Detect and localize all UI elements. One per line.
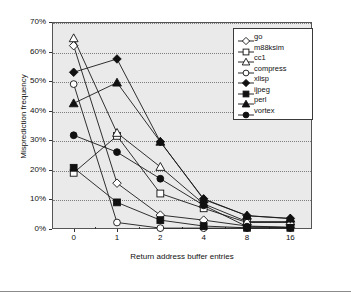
legend-marker-open-triangle-icon [238,53,254,63]
x-tick-mark [117,229,118,232]
x-tick-label: 2 [148,233,172,242]
y-tick-label: 70% [0,18,46,26]
data-point [113,179,122,188]
data-point [200,223,207,230]
data-point [114,199,121,206]
legend-marker-filled-circle-icon [238,106,254,116]
data-point [114,149,121,156]
legend-label: perl [254,95,267,105]
x-tick-label: 1 [105,233,129,242]
figure-divider [0,291,351,292]
legend-label: go [254,32,262,42]
legend-label: vortex [254,106,274,116]
legend-item-compress: compress [238,64,308,75]
data-point [157,175,164,182]
data-point [244,223,251,230]
data-point [70,132,77,139]
legend-item-cc1: cc1 [238,53,308,64]
legend-label: ijpeg [254,85,270,95]
legend-item-vortex: vortex [238,106,308,117]
x-tick-label: 16 [278,233,302,242]
legend-marker-open-circle-icon [238,64,254,74]
legend-marker-filled-diamond-icon [238,74,254,84]
legend-marker-filled-square-icon [238,85,254,95]
x-axis-title: Return address buffer entries [52,252,312,261]
x-tick-label: 8 [235,233,259,242]
legend-item-xlisp: xlisp [238,74,308,85]
chart-legend: gom88ksimcc1compressxlispijpegperlvortex [233,28,313,120]
x-tick-mark [74,229,75,232]
data-point [157,225,164,232]
data-point [157,190,164,197]
legend-item-perl: perl [238,95,308,106]
series-line [74,168,291,228]
legend-label: cc1 [254,53,266,63]
data-point [69,34,78,42]
legend-item-go: go [238,32,308,43]
data-point [113,78,122,86]
legend-marker-open-square-icon [238,43,254,53]
legend-marker-open-diamond-icon [238,32,254,42]
y-axis-title: Misprediction frequency [19,32,28,202]
data-point [157,217,164,224]
y-tick-label: 0% [0,225,46,233]
legend-item-ijpeg: ijpeg [238,85,308,96]
y-tick-mark [49,229,52,230]
data-point [114,219,121,226]
data-point [200,202,207,209]
data-point [70,81,77,88]
legend-label: xlisp [254,74,269,84]
data-point [287,224,294,231]
data-point [156,162,165,170]
data-point [69,68,78,77]
data-point [113,55,122,64]
x-tick-label: 4 [192,233,216,242]
legend-label: compress [254,64,287,74]
legend-item-m88ksim: m88ksim [238,43,308,54]
legend-marker-filled-triangle-icon [238,95,254,105]
data-point [70,164,77,171]
figure-container: 0%10%20%30%40%50%60%70% 0124816 Return a… [0,0,351,298]
x-tick-label: 0 [62,233,86,242]
data-point [69,99,78,107]
legend-label: m88ksim [254,43,284,53]
